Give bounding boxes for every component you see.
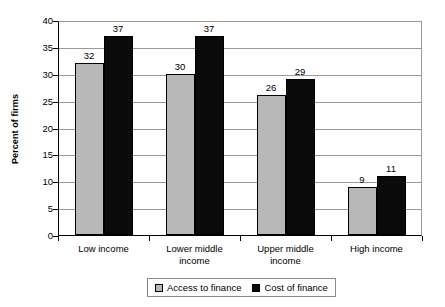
x-axis-category-label-line: income [149, 255, 240, 267]
y-axis-tick-label: 40 [29, 16, 53, 26]
x-axis-category-label-line: Lower middle [149, 243, 240, 255]
x-axis-tick-mark [422, 236, 423, 241]
y-axis-tick-label: 15 [29, 150, 53, 160]
bar-group: 911 [332, 22, 423, 235]
legend-label: Cost of finance [264, 282, 327, 293]
x-axis-category-label: High income [331, 243, 422, 255]
legend-label: Access to finance [167, 282, 241, 293]
y-axis-tick-label: 35 [29, 43, 53, 53]
y-axis-tick-label: 30 [29, 70, 53, 80]
x-axis-tick-mark [149, 236, 150, 241]
y-axis-tick-label: 25 [29, 97, 53, 107]
bar [166, 74, 195, 235]
y-axis-tick-label: 10 [29, 177, 53, 187]
legend-swatch-icon [155, 284, 163, 292]
x-axis-category-label: Lower middleincome [149, 243, 240, 267]
bar [377, 176, 406, 235]
bar-value-label: 29 [280, 66, 320, 77]
bar-value-label: 37 [98, 23, 138, 34]
chart-legend: Access to financeCost of finance [147, 278, 336, 297]
bar-value-label: 37 [189, 23, 229, 34]
x-axis-category-label-line: Low income [58, 243, 149, 255]
x-axis-tick-mark [58, 236, 59, 241]
bar-value-label: 11 [371, 163, 411, 174]
legend-entry[interactable]: Cost of finance [252, 282, 327, 293]
bar [257, 95, 286, 235]
x-axis-category-label: Low income [58, 243, 149, 255]
bar-group: 3237 [59, 22, 150, 235]
bar [75, 63, 104, 235]
bar [104, 36, 133, 235]
legend-swatch-icon [252, 284, 260, 292]
bar-value-label: 32 [69, 50, 109, 61]
bar [348, 187, 377, 235]
bar-value-label: 30 [160, 61, 200, 72]
bar-group: 2629 [241, 22, 332, 235]
bar-group: 3037 [150, 22, 241, 235]
y-axis-tick-label: 20 [29, 124, 53, 134]
x-axis-category-label-line: income [240, 255, 331, 267]
x-axis-tick-mark [240, 236, 241, 241]
bar-chart-figure: Percent of firms 0510152025303540 323730… [0, 0, 445, 307]
y-axis-title: Percent of firms [4, 21, 26, 236]
bar [286, 79, 315, 235]
y-axis-tick-label: 0 [29, 231, 53, 241]
x-axis-tick-mark [331, 236, 332, 241]
y-axis-tick-label: 5 [29, 204, 53, 214]
legend-entry[interactable]: Access to finance [155, 282, 241, 293]
bar [195, 36, 224, 235]
y-axis-title-text: Percent of firms [10, 93, 20, 163]
x-axis-category-label: Upper middleincome [240, 243, 331, 267]
bar-value-label: 26 [251, 82, 291, 93]
plot-area: 323730372629911 [58, 21, 422, 236]
x-axis-category-label-line: High income [331, 243, 422, 255]
bar-value-label: 9 [342, 174, 382, 185]
x-axis-category-label-line: Upper middle [240, 243, 331, 255]
